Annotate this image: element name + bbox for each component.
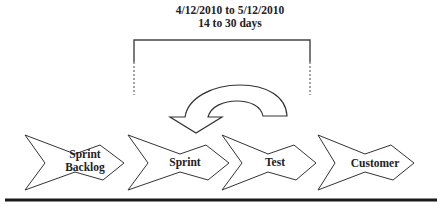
stage-label-customer: Customer xyxy=(340,157,410,170)
stage-label-line2: Backlog xyxy=(55,161,115,174)
stage-label-test: Test xyxy=(245,156,305,169)
sprint-flow-diagram: 4/12/2010 to 5/12/2010 14 to 30 days Sp xyxy=(0,0,439,206)
curved-return-arrow-icon xyxy=(170,85,287,133)
stage-label-sprint: Sprint xyxy=(155,156,215,169)
stage-label-line1: Sprint xyxy=(155,156,215,169)
stage-label-sprint-backlog: Sprint Backlog xyxy=(55,148,115,174)
stage-label-line1: Customer xyxy=(340,157,410,170)
stage-label-line1: Sprint xyxy=(55,148,115,161)
diagram-graphics xyxy=(0,0,439,206)
stage-label-line1: Test xyxy=(245,156,305,169)
